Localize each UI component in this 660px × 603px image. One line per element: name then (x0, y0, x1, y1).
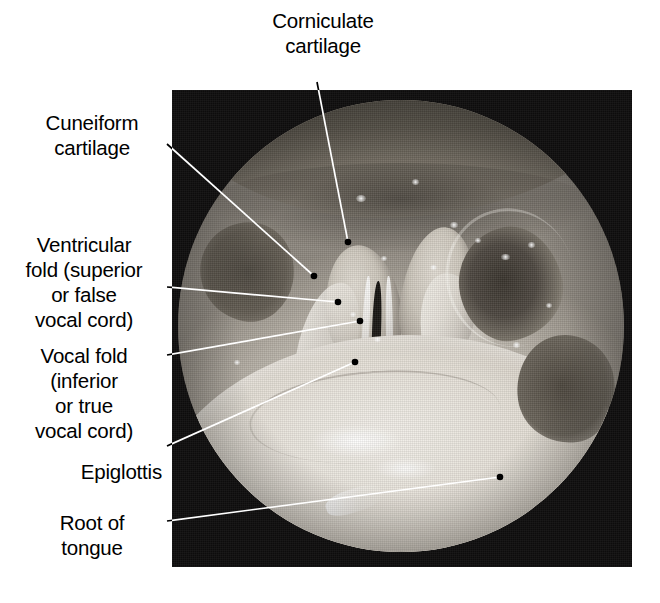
endoscopic-circular-field (178, 100, 624, 552)
label-epiglottis: Epiglottis (22, 459, 162, 484)
label-ventricular-fold: Ventricular fold (superior or false voca… (6, 232, 162, 332)
label-vocal-fold: Vocal fold (inferior or true vocal cord) (6, 343, 162, 443)
laryngoscope-photo-plate (172, 90, 632, 567)
label-corniculate-cartilage: Corniculate cartilage (253, 8, 393, 58)
label-root-of-tongue: Root of tongue (22, 510, 162, 560)
label-cuneiform-cartilage: Cuneiform cartilage (22, 110, 162, 160)
anatomical-figure: Corniculate cartilageCuneiform cartilage… (0, 0, 660, 603)
scope-vignette (178, 100, 624, 552)
